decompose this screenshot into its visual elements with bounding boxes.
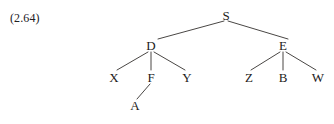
tree-edge-s-d	[158, 21, 224, 39]
tree-edges	[0, 0, 334, 124]
tree-edge-d-x	[117, 52, 148, 70]
tree-node-b: B	[279, 71, 288, 84]
tree-edge-e-z	[251, 52, 280, 70]
tree-node-w: W	[312, 71, 324, 84]
tree-edge-e-w	[286, 52, 316, 70]
tree-node-f: F	[147, 71, 154, 84]
tree-node-z: Z	[245, 71, 253, 84]
tree-edge-d-y	[154, 52, 185, 70]
tree-node-s: S	[222, 9, 229, 22]
tree-node-e: E	[279, 39, 287, 52]
syntax-tree-figure: (2.64) SDEXFYZBWA	[0, 0, 334, 124]
tree-node-d: D	[146, 39, 155, 52]
tree-edge-s-e	[228, 21, 288, 39]
tree-node-a: A	[130, 99, 139, 112]
tree-node-x: X	[109, 71, 118, 84]
tree-node-y: Y	[182, 71, 191, 84]
